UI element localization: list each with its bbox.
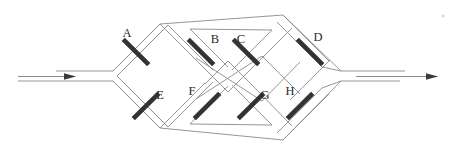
interferometer-figure: ABCDEFGH <box>0 0 454 156</box>
outer-bottom-edge <box>160 128 283 140</box>
inner-bottom-edge <box>190 124 272 125</box>
outer-top-left-edge <box>113 24 160 71</box>
mirror-label-f: F <box>189 84 196 98</box>
center-cross-rail-a <box>196 58 262 101</box>
right-junction <box>322 67 341 88</box>
mirror-label-d: D <box>313 30 322 44</box>
mirror-label-h: H <box>285 84 294 98</box>
inner-top-edge <box>190 29 272 30</box>
outer-bottom-left-edge <box>113 81 160 128</box>
mirror-label-a: A <box>122 26 131 40</box>
input-beam <box>18 71 113 81</box>
scan-speck <box>441 14 444 17</box>
output-beam <box>341 71 438 81</box>
mirror-a[interactable] <box>123 39 148 64</box>
mirror-layer <box>123 39 322 118</box>
mirror-label-g: G <box>260 88 269 102</box>
input-arrow-icon <box>64 73 76 80</box>
arm-h-rail-2 <box>277 88 322 133</box>
mirror-label-c: C <box>237 32 245 46</box>
interferometer-diagram: ABCDEFGH <box>0 0 454 156</box>
outer-envelope <box>113 15 341 140</box>
mirror-label-e: E <box>156 88 164 102</box>
right-merge-upper <box>322 67 341 71</box>
arm-e-rail-2 <box>160 83 205 128</box>
outer-top-edge <box>160 15 283 24</box>
mirror-label-b: B <box>211 32 219 46</box>
mirror-e[interactable] <box>133 93 158 118</box>
output-arrow-icon <box>426 73 438 80</box>
arm-a-descend <box>168 25 213 70</box>
